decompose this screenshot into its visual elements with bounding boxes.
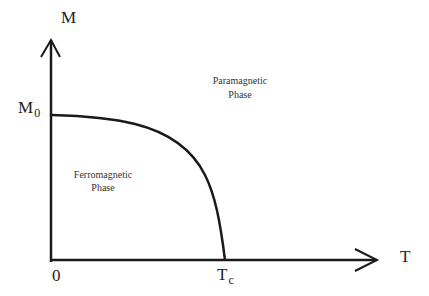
m0-sub: 0	[34, 106, 40, 120]
ferromagnetic-label-line1: Ferromagnetic	[74, 169, 133, 180]
magnetization-curve	[52, 115, 225, 260]
x-axis-label: T	[400, 247, 411, 266]
ferromagnetic-label-line2: Phase	[91, 182, 115, 193]
origin-label: 0	[52, 266, 61, 285]
phase-diagram: M M0 0 Tc T Paramagnetic Phase Ferromagn…	[0, 0, 429, 296]
tc-main: T	[217, 265, 228, 284]
paramagnetic-label-line2: Phase	[228, 89, 252, 100]
tc-label: Tc	[217, 265, 234, 287]
tc-sub: c	[228, 273, 233, 287]
y-axis-label: M	[61, 8, 76, 27]
m0-main: M	[18, 98, 33, 117]
paramagnetic-label-line1: Paramagnetic	[213, 75, 268, 86]
m0-label: M0	[18, 98, 40, 120]
